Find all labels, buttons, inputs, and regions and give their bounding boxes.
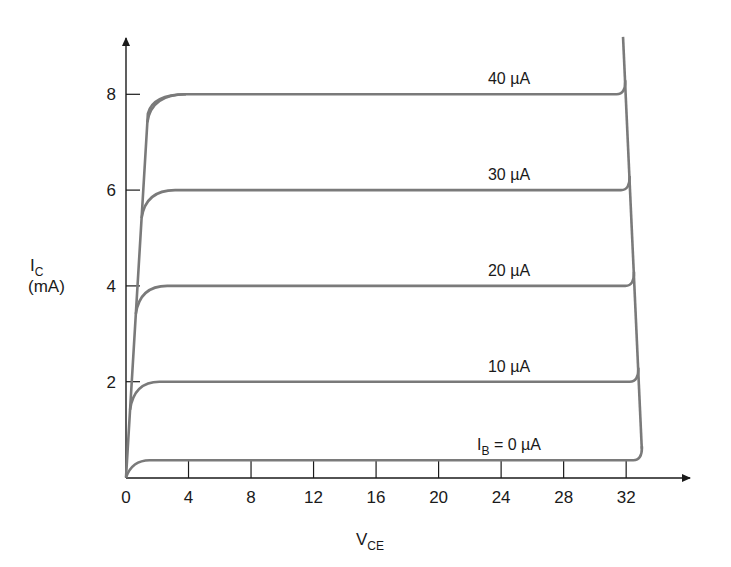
x-tick-label: 32 <box>617 488 636 507</box>
y-tick-label: 8 <box>107 85 116 104</box>
y-axis-unit: (mA) <box>28 277 65 296</box>
x-tick-label: 24 <box>492 488 511 507</box>
x-tick-label: 8 <box>246 488 255 507</box>
x-axis-title: VCE <box>356 530 384 553</box>
y-tick-label: 2 <box>107 373 116 392</box>
curve-label-ib-10: 10 µA <box>488 358 530 375</box>
ic-curve-ib-30 <box>142 176 630 218</box>
breakdown-line <box>623 37 642 449</box>
x-tick-label: 16 <box>367 488 386 507</box>
x-axis-ticks: 048121620242832 <box>121 460 635 507</box>
axes <box>126 38 690 478</box>
x-tick-label: 28 <box>554 488 573 507</box>
y-axis-title: IC <box>30 256 44 279</box>
ic-curve-ib-10 <box>130 368 638 410</box>
curve-label-ib-30: 30 µA <box>488 166 530 183</box>
ic-curve-ib-20 <box>136 272 634 314</box>
y-tick-label: 4 <box>107 277 116 296</box>
ic-curve-ib-40 <box>147 80 625 122</box>
curve-labels: IB = 0 µA10 µA20 µA30 µA40 µA <box>477 70 541 458</box>
ic-curve-ib-0 <box>126 446 642 477</box>
curve-label-ib-20: 20 µA <box>488 262 530 279</box>
x-tick-label: 4 <box>184 488 193 507</box>
x-tick-label: 12 <box>304 488 323 507</box>
y-tick-label: 6 <box>107 181 116 200</box>
x-tick-label: 0 <box>121 488 130 507</box>
x-tick-label: 20 <box>429 488 448 507</box>
curve-label-ib-0: IB = 0 µA <box>477 436 541 458</box>
transistor-characteristic-chart: 048121620242832 2468 IB = 0 µA10 µA20 µA… <box>0 0 731 567</box>
curve-label-ib-40: 40 µA <box>488 70 530 87</box>
curves <box>126 37 642 478</box>
